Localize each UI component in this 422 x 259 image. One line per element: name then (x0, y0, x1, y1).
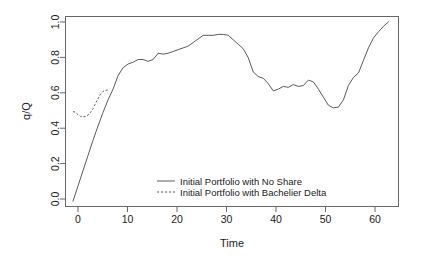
y-tick-label: 0.8 (49, 50, 61, 65)
x-tick-label: 0 (75, 213, 81, 225)
x-tick-label: 30 (221, 213, 233, 225)
y-tick-label: 1.0 (49, 15, 61, 30)
legend-label-no-share: Initial Portfolio with No Share (180, 176, 302, 187)
x-tick-label: 40 (270, 213, 282, 225)
legend: Initial Portfolio with No Share Initial … (157, 176, 327, 198)
x-tick-label: 10 (122, 213, 134, 225)
x-axis-title: Time (220, 237, 244, 249)
y-tick-label: 0.6 (49, 85, 61, 100)
x-tick-label: 60 (369, 213, 381, 225)
y-tick-label: 0.2 (49, 156, 61, 171)
chart-figure: 1.0 0.8 0.6 0.4 0.2 0.0 q/Q 0 10 20 30 4… (0, 0, 422, 259)
y-tick-label: 0.0 (49, 192, 61, 207)
figure-background (0, 0, 422, 259)
y-axis-title: q/Q (20, 102, 32, 120)
x-tick-label: 20 (171, 213, 183, 225)
x-tick-label: 50 (320, 213, 332, 225)
y-tick-label: 0.4 (49, 121, 61, 136)
legend-label-bachelier-delta: Initial Portfolio with Bachelier Delta (180, 187, 327, 198)
